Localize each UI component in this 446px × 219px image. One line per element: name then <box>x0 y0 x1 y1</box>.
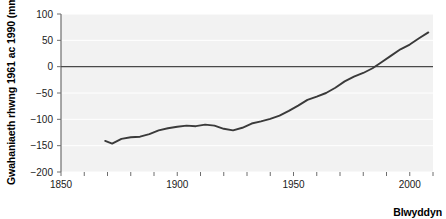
y-axis-ticks-group: 100500−50−100−150−200 <box>30 9 61 178</box>
y-axis-title: Gwahaniaeth rhwng 1961 ac 1990 (mm) <box>2 10 20 185</box>
y-tick-label: 0 <box>47 61 53 72</box>
y-tick-label: −50 <box>36 88 53 99</box>
x-axis-ticks-group: 1850190019502000 <box>50 172 433 190</box>
y-tick-label: −150 <box>30 140 53 151</box>
chart-plot-svg: 100500−50−100−150−200 1850190019502000 <box>0 0 446 219</box>
x-axis-title: Blwyddyn <box>393 206 442 218</box>
y-tick-label: −100 <box>30 114 53 125</box>
y-tick-label: −200 <box>30 167 53 178</box>
y-tick-label: 50 <box>42 35 54 46</box>
rainfall-difference-chart: Gwahaniaeth rhwng 1961 ac 1990 (mm) 1005… <box>0 0 446 219</box>
x-tick-label: 1950 <box>282 179 305 190</box>
y-tick-label: 100 <box>36 9 53 20</box>
x-tick-label: 2000 <box>399 179 422 190</box>
x-tick-label: 1850 <box>50 179 73 190</box>
x-tick-label: 1900 <box>166 179 189 190</box>
